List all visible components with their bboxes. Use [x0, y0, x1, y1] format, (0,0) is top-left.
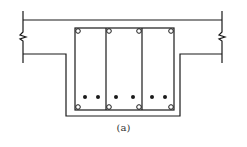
tension-bar	[163, 95, 167, 99]
tension-bar	[96, 95, 100, 99]
corner-bar	[169, 29, 174, 34]
corner-bar	[107, 105, 112, 110]
tension-bar	[83, 95, 87, 99]
corner-bar	[169, 105, 174, 110]
corner-bar	[137, 29, 142, 34]
web-outline	[23, 54, 222, 116]
corner-bar	[137, 105, 142, 110]
corner-bar	[76, 105, 81, 110]
tension-bar	[131, 95, 135, 99]
left-break-line	[20, 11, 26, 63]
tension-bar	[114, 95, 118, 99]
figure-caption: (a)	[0, 122, 247, 133]
outer-stirrup	[75, 28, 174, 110]
corner-bar	[107, 29, 112, 34]
right-break-line	[219, 11, 225, 63]
tension-bar	[150, 95, 154, 99]
corner-bar	[76, 29, 81, 34]
